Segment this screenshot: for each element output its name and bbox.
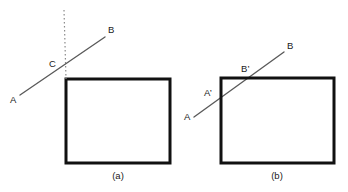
- segment-ab-a: [20, 37, 105, 95]
- label-a-point-B: B: [108, 24, 115, 35]
- label-b-point-A-prime: A’: [204, 87, 212, 98]
- label-a-point-C: C: [49, 58, 56, 69]
- geometry-figure: A B C (a) A B A’ B’ (b): [0, 0, 348, 192]
- dotted-boundary-line-a: [64, 10, 66, 79]
- segment-ab-b: [194, 52, 284, 117]
- clip-window-rect-a: [66, 79, 170, 163]
- label-a-point-A: A: [10, 94, 17, 105]
- caption-panel-b: (b): [271, 170, 283, 181]
- panel-b: A B A’ B’ (b): [184, 40, 334, 181]
- label-b-point-B-prime: B’: [241, 63, 250, 74]
- label-b-point-B: B: [287, 40, 294, 51]
- panel-a: A B C (a): [10, 10, 170, 181]
- clip-window-rect-b: [221, 78, 334, 163]
- figure-canvas: A B C (a) A B A’ B’ (b): [0, 0, 348, 192]
- label-b-point-A: A: [184, 111, 191, 122]
- caption-panel-a: (a): [112, 170, 124, 181]
